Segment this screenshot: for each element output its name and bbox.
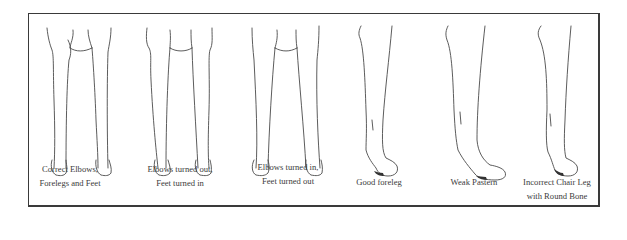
caption-elbows-in: Elbows turned in, Feet turned out — [258, 160, 319, 188]
leg-drawing-elbows-in — [252, 26, 322, 176]
caption-correct-front: Correct Elbows, Forelegs and Feet — [39, 162, 100, 190]
caption-chair-leg: Incorrect Chair Leg with Round Bone — [523, 175, 591, 203]
caption-elbows-out: Elbows turned out, Feet turned in — [147, 162, 212, 190]
leg-drawing-weak-pastern — [446, 26, 506, 180]
leg-drawing-elbows-out — [146, 28, 212, 176]
caption-weak-pastern: Weak Pastern — [451, 175, 498, 189]
caption-line: Forelegs and Feet — [39, 176, 100, 190]
caption-line: Elbows turned in, — [258, 160, 319, 174]
caption-line: Good foreleg — [356, 175, 402, 189]
caption-good-foreleg: Good foreleg — [356, 175, 402, 189]
caption-line: Incorrect Chair Leg — [523, 175, 591, 189]
caption-line: Weak Pastern — [451, 175, 498, 189]
leg-drawing-good-foreleg — [359, 26, 398, 176]
caption-line: with Round Bone — [523, 189, 591, 203]
caption-line: Feet turned in — [147, 176, 212, 190]
leg-drawing-correct-front — [47, 28, 111, 176]
leg-drawing-chair-leg — [538, 26, 577, 176]
caption-line: Correct Elbows, — [39, 162, 100, 176]
caption-line: Elbows turned out, — [147, 162, 212, 176]
caption-line: Feet turned out — [258, 174, 319, 188]
